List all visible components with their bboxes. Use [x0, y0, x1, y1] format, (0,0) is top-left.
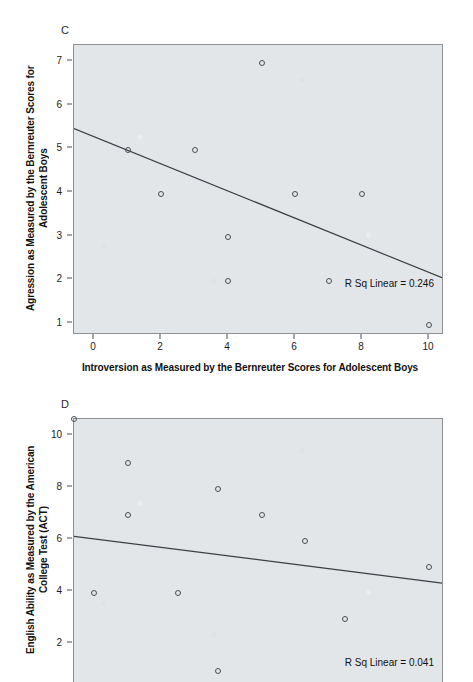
data-point	[225, 234, 231, 240]
x-tick-mark-c-8	[361, 334, 362, 339]
x-tick-label-c-4: 4	[215, 341, 239, 352]
trend-line-c	[74, 45, 442, 333]
x-tick-label-c-2: 2	[148, 341, 172, 352]
plot-area-d: R Sq Linear = 0.041	[73, 418, 443, 682]
r-squared-label-c: R Sq Linear = 0.246	[345, 278, 434, 289]
y-tick-label-c-4: 4	[46, 186, 62, 197]
y-tick-label-d-2: 2	[42, 637, 62, 648]
y-tick-mark-c-3	[67, 235, 72, 236]
data-point	[342, 616, 348, 622]
data-point	[426, 322, 432, 328]
data-point	[125, 512, 131, 518]
y-tick-label-d-8: 8	[42, 481, 62, 492]
y-tick-mark-c-5	[67, 147, 72, 148]
x-tick-label-c-8: 8	[349, 341, 373, 352]
y-tick-label-d-10: 10	[42, 429, 62, 440]
y-tick-mark-c-4	[67, 191, 72, 192]
y-tick-mark-c-1	[67, 322, 72, 323]
r-squared-label-d: R Sq Linear = 0.041	[345, 657, 434, 668]
x-tick-mark-c-0	[93, 334, 94, 339]
trend-line-d	[74, 419, 442, 682]
data-point	[175, 590, 181, 596]
y-tick-label-c-6: 6	[46, 99, 62, 110]
data-point	[215, 486, 221, 492]
data-point	[326, 278, 332, 284]
panel-letter-d: D	[61, 398, 69, 410]
y-axis-title-c-line1: Agression as Measured by the Bernreuter …	[25, 66, 36, 312]
x-tick-mark-c-4	[227, 334, 228, 339]
data-point	[158, 191, 164, 197]
y-axis-title-d-line1: English Ability as Measured by the Ameri…	[25, 446, 36, 654]
data-point	[225, 278, 231, 284]
data-point	[259, 60, 265, 66]
x-tick-label-c-0: 0	[81, 341, 105, 352]
y-tick-mark-d-2	[67, 642, 72, 643]
data-point	[91, 590, 97, 596]
x-tick-label-c-10: 10	[416, 341, 440, 352]
y-tick-mark-c-6	[67, 104, 72, 105]
panel-letter-c: C	[61, 24, 69, 36]
y-tick-mark-d-4	[67, 590, 72, 591]
x-tick-mark-c-6	[294, 334, 295, 339]
data-point	[302, 538, 308, 544]
y-tick-mark-d-8	[67, 486, 72, 487]
x-tick-mark-c-2	[160, 334, 161, 339]
data-point	[292, 191, 298, 197]
data-point	[259, 512, 265, 518]
y-tick-mark-c-2	[67, 278, 72, 279]
y-tick-label-d-6: 6	[42, 533, 62, 544]
data-point	[192, 147, 198, 153]
y-tick-label-c-3: 3	[46, 230, 62, 241]
data-point	[71, 416, 77, 422]
x-tick-mark-c-10	[428, 334, 429, 339]
data-point	[426, 564, 432, 570]
y-tick-label-c-7: 7	[46, 55, 62, 66]
y-tick-label-c-2: 2	[46, 273, 62, 284]
data-point	[125, 147, 131, 153]
figure-container: C Agression as Measured by the Bernreute…	[0, 0, 473, 682]
plot-area-c: R Sq Linear = 0.246	[73, 44, 443, 334]
data-point	[125, 460, 131, 466]
y-tick-label-c-1: 1	[46, 317, 62, 328]
x-axis-title-c: Introversion as Measured by the Bernreut…	[40, 362, 460, 373]
y-tick-mark-d-10	[67, 434, 72, 435]
y-tick-mark-d-6	[67, 538, 72, 539]
y-axis-title-d-line2: College Test (ACT)	[38, 507, 49, 594]
x-tick-label-c-6: 6	[282, 341, 306, 352]
data-point	[215, 668, 221, 674]
y-tick-mark-c-7	[67, 60, 72, 61]
y-tick-label-d-4: 4	[42, 585, 62, 596]
y-tick-label-c-5: 5	[46, 142, 62, 153]
data-point	[359, 191, 365, 197]
